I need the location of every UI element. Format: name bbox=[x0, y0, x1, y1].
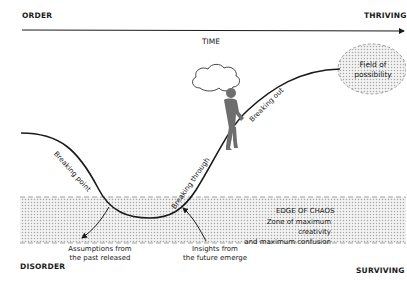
field-of-possibility-text: Field of possibility bbox=[344, 60, 402, 80]
thought-cloud-icon bbox=[193, 64, 240, 91]
field-line-1: Field of bbox=[344, 60, 402, 70]
order-label: ORDER bbox=[22, 11, 52, 20]
assumptions-annotation: Assumptions from the past released bbox=[62, 245, 138, 263]
person-figure-icon bbox=[224, 88, 244, 150]
disorder-label: DISORDER bbox=[20, 262, 65, 271]
insights-line-1: Insights from bbox=[180, 245, 250, 254]
assumptions-line-2: the past released bbox=[62, 254, 138, 263]
edge-of-chaos-zone bbox=[20, 197, 406, 243]
insights-line-2: the future emerge bbox=[180, 254, 250, 263]
time-axis-arrow bbox=[22, 30, 404, 31]
assumptions-line-1: Assumptions from bbox=[62, 245, 138, 254]
time-label: TIME bbox=[202, 37, 220, 46]
insights-annotation: Insights from the future emerge bbox=[180, 245, 250, 263]
edge-of-chaos-title: EDGE OF CHAOS bbox=[276, 207, 334, 215]
surviving-label: SURVIVING bbox=[356, 266, 405, 275]
field-line-2: possibility bbox=[344, 70, 402, 80]
chaos-line-1: Zone of maximum creativity bbox=[233, 217, 331, 237]
thriving-label: THRIVING bbox=[364, 11, 407, 20]
chaos-zone-description: Zone of maximum creativity and maximum c… bbox=[233, 217, 331, 247]
